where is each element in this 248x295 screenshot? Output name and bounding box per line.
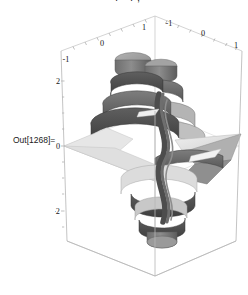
y-tick-label-1: 1	[234, 41, 238, 50]
z-tick-label-2: 2	[56, 77, 60, 86]
clipped-top-text: · ı · ı ,	[0, 0, 248, 7]
x-tick-label-1: 1	[142, 23, 146, 32]
y-tick-label-neg1: -1	[166, 19, 173, 28]
surface3d-svg[interactable]: 1 0 -1 -1 0 1 2 0 -2	[55, 8, 248, 291]
plot-graphic[interactable]: 1 0 -1 -1 0 1 2 0 -2	[55, 8, 248, 291]
clipped-top-text-value: · ı · ı ,	[0, 0, 248, 3]
x-tick-label-neg1: -1	[63, 55, 70, 64]
out-label: Out[1268]=	[13, 135, 55, 146]
x-tick-label-0: 0	[100, 39, 104, 48]
x-axis-ticks	[73, 20, 147, 50]
z-tick-label-neg2: -2	[55, 207, 60, 216]
helicoid-surface	[64, 53, 241, 249]
y-tick-label-0: 0	[201, 29, 205, 38]
z-tick-label-0: 0	[56, 142, 60, 151]
surface-bottom-cap	[147, 232, 177, 248]
notebook-output-cell: · ı · ı , Out[1268]=	[0, 0, 248, 295]
